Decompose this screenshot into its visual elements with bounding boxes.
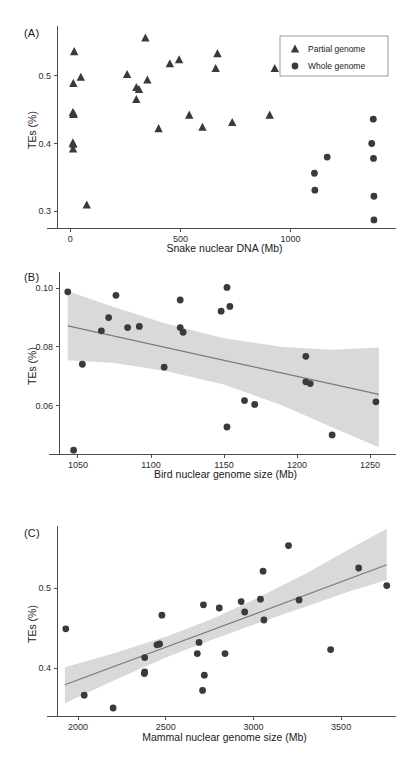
data-point-circle [177,297,184,304]
data-point-triangle [271,64,279,72]
data-point-circle [110,705,117,712]
data-point-circle [311,170,318,177]
data-point-circle [156,641,163,648]
data-point-circle [329,432,336,439]
data-point-circle [302,353,309,360]
data-point-circle [98,327,105,334]
y-axis-title: TEs (%) [26,111,38,149]
y-tick-label: 0.3 [38,206,51,216]
data-point-circle [261,617,268,624]
data-point-circle [370,155,377,162]
data-point-circle [224,424,231,431]
data-point-triangle [265,111,273,119]
data-point-triangle [77,73,85,81]
data-point-circle [251,401,258,408]
data-point-triangle [198,123,206,131]
data-point-triangle [228,118,236,126]
data-point-triangle [185,111,193,119]
data-point-circle [216,605,223,612]
data-point-circle [194,650,201,657]
data-point-triangle [141,34,149,42]
data-point-circle [296,597,303,604]
y-tick-label: 0.08 [35,342,53,352]
data-point-circle [260,568,267,575]
panel-a: (A) 050010000.30.40.5Snake nuclear DNA (… [0,0,409,258]
data-point-circle [373,398,380,405]
data-point-circle [70,447,77,454]
data-point-circle [371,193,378,200]
panel-b-plot: 105011001150120012500.060.080.10Bird nuc… [0,258,409,510]
data-point-circle [222,650,229,657]
data-point-circle [79,361,86,368]
confidence-band [68,291,379,447]
data-point-circle [113,292,120,299]
figure-container: (A) 050010000.30.40.5Snake nuclear DNA (… [0,0,409,773]
panel-a-label: (A) [24,27,39,39]
y-tick-label: 0.10 [35,283,53,293]
data-point-circle [311,187,318,194]
data-point-circle [196,639,203,646]
y-axis-title: TEs (%) [26,347,38,385]
data-point-circle [370,116,377,123]
panel-c: (C) 20002500300035000.40.5Mammal nuclear… [0,510,409,773]
legend-entry-label: Partial genome [308,44,365,54]
data-point-circle [81,692,88,699]
panel-c-label: (C) [24,527,40,539]
panel-c-plot: 20002500300035000.40.5Mammal nuclear gen… [0,510,409,773]
data-point-circle [62,625,69,632]
y-tick-label: 0.4 [38,663,51,673]
data-point-triangle [83,200,91,208]
legend-marker-triangle [291,44,299,52]
data-point-circle [285,542,292,549]
confidence-band [65,529,387,703]
data-point-circle [199,687,206,694]
data-point-triangle [154,124,162,132]
data-point-circle [226,303,233,310]
data-point-circle [324,154,331,161]
data-point-triangle [175,55,183,63]
data-point-triangle [166,59,174,67]
data-point-circle [200,601,207,608]
data-point-triangle [132,95,140,103]
data-point-circle [307,380,314,387]
data-point-circle [201,672,208,679]
regression-line [65,565,387,685]
data-point-triangle [213,49,221,57]
data-point-circle [161,364,168,371]
data-point-circle [141,670,148,677]
data-point-circle [355,565,362,572]
data-point-circle [241,397,248,404]
y-tick-label: 0.06 [35,401,53,411]
y-tick-label: 0.4 [38,139,51,149]
panel-b: (B) 105011001150120012500.060.080.10Bird… [0,258,409,510]
data-point-circle [218,308,225,315]
data-point-circle [64,288,71,295]
data-point-triangle [211,64,219,72]
data-point-circle [368,140,375,147]
panel-b-label: (B) [24,271,39,283]
data-point-circle [158,612,165,619]
data-point-circle [141,654,148,661]
data-point-circle [383,582,390,589]
x-tick-label: 2000 [68,722,88,732]
x-tick-label: 1050 [68,460,88,470]
data-point-circle [124,324,131,331]
legend-entry-label: Whole genome [308,61,365,71]
data-point-circle [224,284,231,291]
x-tick-label: 1000 [281,234,301,244]
data-point-circle [371,216,378,223]
panel-a-plot: 050010000.30.40.5Snake nuclear DNA (Mb)T… [0,0,409,258]
data-point-triangle [123,70,131,78]
data-point-triangle [70,47,78,55]
data-point-circle [180,329,187,336]
x-axis-title: Mammal nuclear genome size (Mb) [142,731,307,743]
legend-marker-circle [292,63,299,70]
data-point-circle [327,646,334,653]
data-point-circle [136,323,143,330]
x-tick-label: 1250 [360,460,380,470]
data-point-triangle [143,75,151,83]
y-axis-title: TEs (%) [26,605,38,643]
x-axis-title: Bird nuclear genome size (Mb) [154,468,297,480]
data-point-circle [238,598,245,605]
data-point-circle [257,596,264,603]
